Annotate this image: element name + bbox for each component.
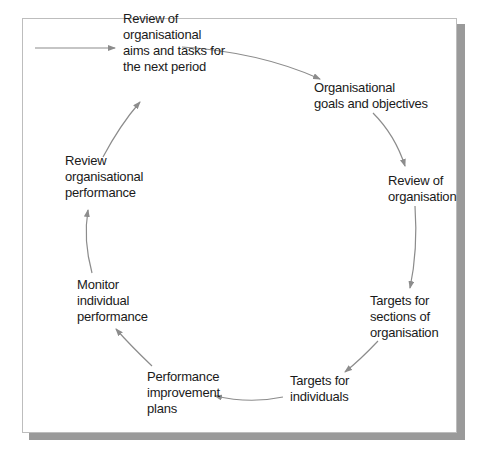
node-line: performance xyxy=(77,309,148,325)
node-line: individuals xyxy=(290,389,349,405)
arrow-individuals-to-plans-icon xyxy=(215,396,283,400)
node-line: individual xyxy=(77,293,148,309)
node-review-aims: Review of organisational aims and tasks … xyxy=(123,11,225,75)
node-line: Review of xyxy=(123,11,225,27)
arrow-sections-to-individuals-icon xyxy=(345,341,378,372)
node-goals-objectives: Organisational goals and objectives xyxy=(314,80,428,112)
node-targets-sections: Targets for sections of organisation xyxy=(370,293,438,341)
node-line: organisation xyxy=(388,189,456,205)
node-line: Review xyxy=(65,153,143,169)
node-line: Review of xyxy=(388,173,456,189)
arrow-goals-to-review-icon xyxy=(373,113,405,166)
node-line: organisational xyxy=(123,27,225,43)
node-line: the next period xyxy=(123,59,225,75)
node-review-organisation: Review of organisation xyxy=(388,173,456,205)
node-line: organisational xyxy=(65,169,143,185)
node-line: plans xyxy=(147,401,220,417)
arrow-review-to-aims-icon xyxy=(103,102,140,157)
arrow-plans-to-monitor-icon xyxy=(116,329,152,366)
node-line: sections of xyxy=(370,309,438,325)
node-line: improvement xyxy=(147,385,220,401)
node-line: performance xyxy=(65,185,143,201)
node-line: aims and tasks for xyxy=(123,43,225,59)
node-line: Performance xyxy=(147,369,220,385)
arrow-review-to-sections-icon xyxy=(410,206,416,288)
node-line: Targets for xyxy=(370,293,438,309)
node-monitor-individual: Monitor individual performance xyxy=(77,277,148,325)
node-line: organisation xyxy=(370,325,438,341)
node-review-org-performance: Review organisational performance xyxy=(65,153,143,201)
node-line: Targets for xyxy=(290,373,349,389)
cycle-arrows xyxy=(0,0,481,451)
node-performance-plans: Performance improvement plans xyxy=(147,369,220,417)
node-line: goals and objectives xyxy=(314,96,428,112)
arrow-monitor-to-review-icon xyxy=(86,210,92,273)
node-targets-individuals: Targets for individuals xyxy=(290,373,349,405)
node-line: Monitor xyxy=(77,277,148,293)
node-line: Organisational xyxy=(314,80,428,96)
